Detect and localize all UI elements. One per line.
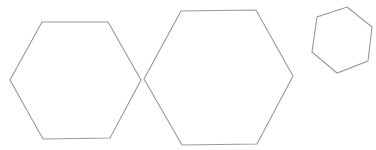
- diagram-canvas: [0, 0, 376, 150]
- hexagon-left: [10, 22, 141, 139]
- hexagon-right-small: [312, 7, 372, 73]
- hexagons-svg: [0, 0, 376, 150]
- hexagon-middle: [144, 10, 293, 145]
